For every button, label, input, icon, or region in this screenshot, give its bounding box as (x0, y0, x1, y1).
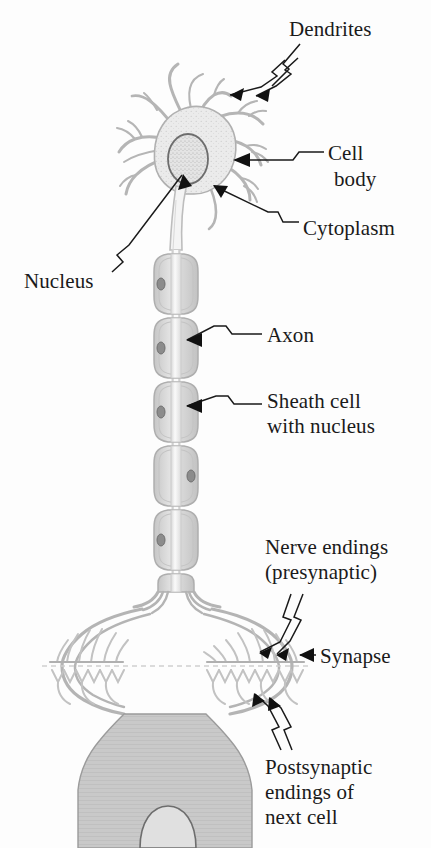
label-postsynaptic-line2: endings of (265, 781, 354, 805)
label-cell-body-line1: Cell (328, 142, 363, 166)
nucleus-shape (168, 134, 208, 184)
label-cytoplasm: Cytoplasm (303, 217, 395, 241)
neuron-diagram-page: Dendrites Cell body Cytoplasm Nucleus Ax… (0, 0, 431, 848)
sheath-cell-segment (154, 318, 198, 378)
label-postsynaptic-line1: Postsynaptic (265, 756, 372, 780)
sheath-nucleus (157, 342, 165, 354)
sheath-nucleus (187, 470, 195, 482)
label-nerve-endings-line1: Nerve endings (265, 536, 388, 560)
sheath-cell-segment (154, 382, 198, 442)
sheath-cell-segment (154, 446, 198, 506)
label-nerve-endings-line2: (presynaptic) (265, 561, 377, 585)
label-dendrites: Dendrites (289, 18, 372, 42)
label-axon: Axon (267, 324, 314, 348)
label-postsynaptic-line3: next cell (265, 806, 338, 830)
label-cell-body-line2: body (334, 168, 376, 192)
label-sheath-cell-line2: with nucleus (267, 415, 375, 439)
sheath-nucleus (157, 406, 165, 418)
label-synapse: Synapse (320, 645, 391, 669)
sheath-nucleus (157, 534, 165, 546)
sheath-nucleus (157, 278, 165, 290)
sheath-cell-segment (154, 510, 198, 570)
sheath-cell-segment (158, 574, 194, 592)
next-cell-body (78, 714, 252, 848)
axon-with-sheath-cells (154, 250, 198, 592)
sheath-cell-segment (154, 254, 198, 314)
label-sheath-cell-line1: Sheath cell (267, 390, 361, 414)
label-nucleus: Nucleus (24, 270, 94, 294)
